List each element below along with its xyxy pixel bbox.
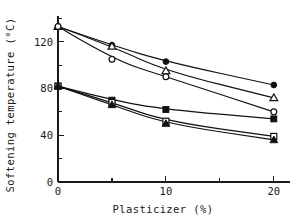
series-markers [54,23,278,143]
y-axis-ticks [58,18,64,182]
x-axis-title: Plasticizer (%) [113,203,214,215]
x-tick-label: 20 [267,185,280,197]
marker-filled-circle [163,59,169,65]
x-tick-label: 0 [55,185,61,197]
marker-filled-circle [271,82,277,88]
y-tick-label: 40 [40,129,53,141]
y-axis-tick-labels: 04080120 [34,36,53,188]
marker-open-circle [109,56,115,62]
chart-figure: 04080120 01020 Plasticizer (%) Softening… [0,0,303,223]
y-tick-label: 120 [34,36,53,48]
x-axis-tick-labels: 01020 [55,185,280,197]
marker-open-circle [163,74,169,80]
softening-temperature-plot: 04080120 01020 Plasticizer (%) Softening… [0,0,303,223]
y-tick-label: 0 [47,176,53,188]
y-tick-label: 80 [40,82,53,94]
axis-lines [58,16,290,182]
marker-open-circle [271,109,277,115]
marker-filled-square [271,116,277,122]
marker-open-circle [55,24,61,30]
x-tick-label: 10 [160,185,173,197]
x-axis-ticks [58,176,274,182]
y-axis-title: Softening temperature (°C) [4,18,16,193]
marker-filled-square [163,107,169,113]
series-line-lower-filled-square [58,86,274,119]
